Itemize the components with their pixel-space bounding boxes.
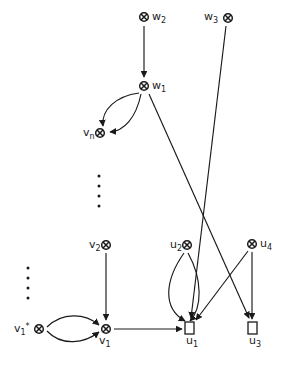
node-u2: [183, 241, 192, 250]
node-label-v2: v2: [89, 239, 101, 250]
node-vn: [96, 129, 105, 138]
node-label-v1-star: v1*: [14, 323, 30, 334]
edge-v1star-v1-upper: [47, 316, 99, 327]
node-label-u1: u1: [186, 335, 198, 346]
vertical-ellipsis-lower: [27, 267, 30, 300]
vertical-ellipsis-upper: [98, 175, 101, 208]
node-v2: [102, 241, 111, 250]
node-w3: [224, 14, 233, 23]
edge-layer: [47, 26, 252, 342]
node-label-v1: v1: [99, 335, 111, 346]
node-label-w1: w1: [152, 80, 166, 91]
node-w1: [140, 82, 149, 91]
ellipsis-layer: [27, 175, 101, 300]
edge-u2-u1-left: [169, 253, 185, 321]
graph-svg: [0, 0, 291, 371]
edge-w1-vn-upper: [103, 93, 139, 126]
node-v1-star: [35, 325, 44, 334]
node-label-u2: u2: [170, 239, 182, 250]
node-u1: [185, 322, 194, 334]
edge-w1-vn-lower: [110, 94, 141, 132]
node-w2: [140, 13, 149, 22]
node-label-u4: u4: [260, 238, 272, 249]
node-label-vn: vn: [83, 127, 95, 138]
node-label-w3: w3: [204, 11, 218, 22]
node-label-w2: w2: [152, 11, 166, 22]
edge-u4-u1: [196, 251, 248, 320]
node-label-u3: u3: [249, 335, 261, 346]
node-layer: [35, 13, 257, 334]
edge-v1star-v1-lower: [47, 331, 99, 342]
node-u4: [248, 240, 257, 249]
diagram-canvas: w2 w3 w1 vn v2 u2 u4 v1* v1 u1 u3: [0, 0, 291, 371]
node-u3: [248, 322, 257, 334]
node-v1: [102, 325, 111, 334]
